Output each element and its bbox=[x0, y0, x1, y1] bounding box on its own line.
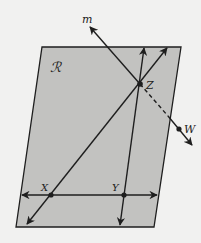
point-y bbox=[121, 192, 126, 197]
geometry-diagram: ℛ m X Y Z W bbox=[0, 0, 201, 243]
point-w bbox=[176, 126, 181, 131]
point-x-label: X bbox=[40, 182, 49, 193]
line-m-label: m bbox=[82, 13, 92, 26]
plane-r bbox=[16, 47, 181, 227]
diagram-svg: ℛ m X Y Z W bbox=[0, 0, 201, 243]
point-w-label: W bbox=[184, 123, 197, 136]
point-z bbox=[137, 81, 143, 87]
point-x bbox=[48, 192, 53, 197]
point-z-label: Z bbox=[145, 79, 154, 92]
plane-label: ℛ bbox=[50, 59, 62, 75]
